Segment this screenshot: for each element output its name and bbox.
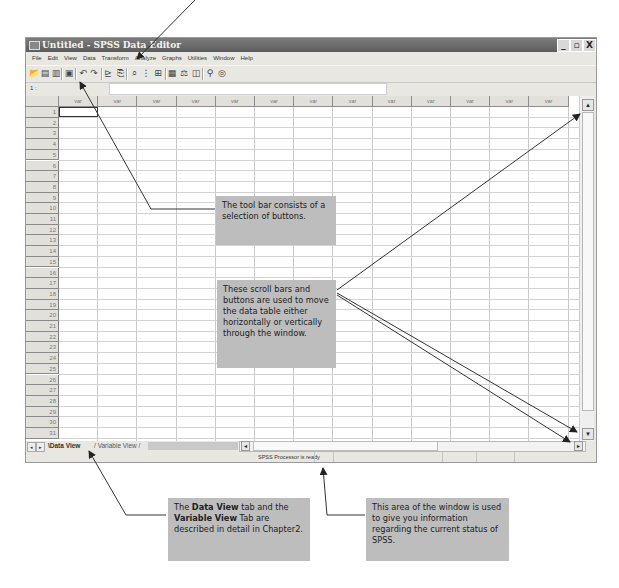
row-header[interactable]: 14 <box>26 246 59 257</box>
goto-case-icon[interactable]: ⎘ <box>115 68 125 79</box>
menu-view[interactable]: View <box>64 52 77 64</box>
row-header[interactable]: 8 <box>26 182 59 193</box>
column-header[interactable]: var <box>529 96 568 107</box>
horizontal-scrollbar[interactable]: ◂ ▸ <box>239 441 586 452</box>
open-icon[interactable]: 📂 <box>29 68 39 79</box>
cell-value-input[interactable] <box>109 83 387 95</box>
scroll-left-button[interactable]: ◂ <box>241 441 250 451</box>
row-header[interactable]: 16 <box>26 268 59 279</box>
column-header[interactable]: var <box>59 96 98 107</box>
row-header[interactable]: 17 <box>26 278 59 289</box>
row-header[interactable]: 7 <box>26 171 59 182</box>
row-header[interactable]: 28 <box>26 396 59 407</box>
row-header[interactable]: 1 <box>26 107 59 118</box>
scroll-up-button[interactable]: ▲ <box>582 99 594 111</box>
save-icon[interactable]: ▤ <box>40 68 50 79</box>
tab-variable-view[interactable]: / Variable View / <box>94 441 140 451</box>
row-header[interactable]: 9 <box>26 193 59 204</box>
menu-help[interactable]: Help <box>240 52 252 64</box>
toolbar-separator <box>165 68 167 80</box>
cell-reference-bar: 1 : <box>26 83 596 95</box>
row-header[interactable]: 11 <box>26 214 59 225</box>
redo-icon[interactable]: ↷ <box>89 68 99 79</box>
grid-column-line <box>450 107 451 441</box>
grid-corner[interactable] <box>26 96 59 107</box>
grid-column-line <box>136 107 137 441</box>
toolbar-separator <box>126 68 128 80</box>
column-header[interactable]: var <box>255 96 294 107</box>
row-header[interactable]: 21 <box>26 321 59 332</box>
row-header[interactable]: 29 <box>26 407 59 418</box>
row-header[interactable]: 2 <box>26 118 59 129</box>
row-header[interactable]: 15 <box>26 257 59 268</box>
grid-column-line <box>411 107 412 441</box>
menu-window[interactable]: Window <box>213 52 234 64</box>
tab-prev-button[interactable]: ◂ <box>27 442 36 452</box>
row-header[interactable]: 26 <box>26 375 59 386</box>
vertical-scrollbar[interactable]: ▲ ▼ <box>579 96 594 441</box>
row-header[interactable]: 6 <box>26 161 59 172</box>
app-icon <box>29 41 40 50</box>
status-text: SPSS Processor is ready <box>258 452 320 462</box>
column-header[interactable]: var <box>294 96 333 107</box>
row-header[interactable]: 31 <box>26 428 59 439</box>
tab-next-button[interactable]: ▸ <box>36 442 45 452</box>
row-header[interactable]: 12 <box>26 225 59 236</box>
row-header[interactable]: 25 <box>26 364 59 375</box>
tab-area-filler <box>148 442 238 450</box>
window-title: Untitled - SPSS Data Editor <box>42 38 181 52</box>
grid-row-line <box>59 160 579 161</box>
scroll-down-button[interactable]: ▼ <box>582 428 594 440</box>
dialog-recall-icon[interactable]: ▣ <box>64 68 74 79</box>
row-header[interactable]: 27 <box>26 385 59 396</box>
column-header[interactable]: var <box>412 96 451 107</box>
tab-data-view[interactable]: \Data View <box>48 441 80 451</box>
weight-cases-icon[interactable]: ⚖ <box>179 68 189 79</box>
menu-transform[interactable]: Transform <box>102 52 129 64</box>
row-header[interactable]: 22 <box>26 332 59 343</box>
column-header[interactable]: var <box>98 96 137 107</box>
row-header[interactable]: 20 <box>26 310 59 321</box>
select-cases-icon[interactable]: ◫ <box>191 68 201 79</box>
menu-edit[interactable]: Edit <box>48 52 58 64</box>
undo-icon[interactable]: ↶ <box>78 68 88 79</box>
horizontal-scroll-thumb[interactable] <box>253 441 438 451</box>
print-icon[interactable]: ▥ <box>51 68 61 79</box>
row-header[interactable]: 5 <box>26 150 59 161</box>
insert-variable-icon[interactable]: ⊞ <box>153 68 163 79</box>
column-header[interactable]: var <box>137 96 176 107</box>
row-header[interactable]: 24 <box>26 353 59 364</box>
column-header[interactable]: var <box>451 96 490 107</box>
menu-analyze[interactable]: Analyze <box>135 52 156 64</box>
value-labels-icon[interactable]: ⚲ <box>205 68 215 79</box>
minimize-button[interactable]: _ <box>557 39 570 52</box>
row-header[interactable]: 3 <box>26 128 59 139</box>
split-file-icon[interactable]: ▦ <box>167 68 177 79</box>
menu-graphs[interactable]: Graphs <box>162 52 182 64</box>
menu-data[interactable]: Data <box>83 52 96 64</box>
row-header[interactable]: 4 <box>26 139 59 150</box>
menu-utilities[interactable]: Utilities <box>188 52 207 64</box>
column-header[interactable]: var <box>216 96 255 107</box>
maximize-button[interactable]: ▫ <box>570 39 583 52</box>
column-header[interactable]: var <box>490 96 529 107</box>
row-header[interactable]: 10 <box>26 203 59 214</box>
menu-file[interactable]: File <box>32 52 42 64</box>
vertical-scroll-thumb[interactable] <box>582 112 594 411</box>
use-sets-icon[interactable]: ◎ <box>217 68 227 79</box>
active-cell[interactable] <box>59 107 98 117</box>
row-header[interactable]: 30 <box>26 417 59 428</box>
row-header[interactable]: 19 <box>26 300 59 311</box>
goto-chart-icon[interactable]: ⊵ <box>103 68 113 79</box>
column-header[interactable]: var <box>177 96 216 107</box>
column-header[interactable]: var <box>333 96 372 107</box>
row-header[interactable]: 23 <box>26 342 59 353</box>
column-header[interactable]: var <box>373 96 412 107</box>
row-header[interactable]: 13 <box>26 235 59 246</box>
close-button[interactable]: X <box>583 39 596 52</box>
row-header[interactable]: 18 <box>26 289 59 300</box>
callout-tabs: The Data View tab and the Variable View … <box>168 498 310 561</box>
find-icon[interactable]: ⌕ <box>129 68 139 79</box>
insert-case-icon[interactable]: ⋮ <box>141 68 151 79</box>
scroll-right-button[interactable]: ▸ <box>574 441 583 451</box>
